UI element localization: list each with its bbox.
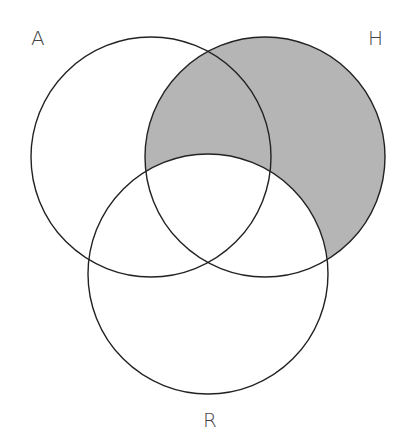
venn-diagram: A H R [0, 0, 403, 446]
label-h: H [368, 26, 383, 50]
label-a: A [31, 26, 45, 50]
label-r: R [203, 408, 217, 432]
